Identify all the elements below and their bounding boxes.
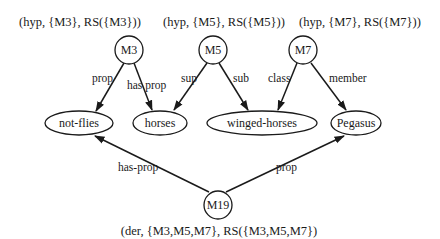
node-horses-label: horses [145,116,176,130]
edge-m7-class [278,63,297,110]
edge-label-has-prop: has prop [127,79,167,92]
node-m7-label: M7 [295,43,312,57]
node-not-flies: not-flies [45,111,113,135]
assertion-label-m3: (hyp, {M3}, RS({M3})) [19,15,141,29]
node-m7: M7 [289,36,317,64]
node-winged-horses: winged-horses [207,111,317,135]
node-horses: horses [133,111,187,135]
edge-label-prop: prop [92,72,113,85]
edge-m3-prop [96,63,124,111]
assertion-label-m5: (hyp, {M5}, RS({M5})) [163,15,285,29]
node-pegasus: Pegasus [331,111,381,135]
node-m5: M5 [199,36,227,64]
node-m3-label: M3 [121,43,138,57]
node-not-flies-label: not-flies [59,116,99,130]
node-m19-label: M19 [207,198,230,212]
node-pegasus-label: Pegasus [337,116,376,130]
node-m3: M3 [115,36,143,64]
edge-label-m19-prop: prop [276,161,297,174]
edge-label-sub: sub [233,72,249,84]
assertion-label-m19: (der, {M3,M5,M7}, RS({M3,M5,M7}) [121,224,317,238]
node-winged-horses-label: winged-horses [227,116,297,130]
edge-label-member: member [329,72,367,84]
edge-label-class: class [268,72,291,84]
node-m5-label: M5 [205,43,222,57]
edge-m7-member [311,63,346,110]
semantic-network-diagram: (hyp, {M3}, RS({M3})) (hyp, {M5}, RS({M5… [0,0,440,239]
edge-m5-sup [174,63,207,110]
node-m19: M19 [204,191,232,219]
edge-label-sup: sup [181,72,197,85]
assertion-label-m7: (hyp, {M7}, RS({M7})) [299,15,421,29]
edge-label-m19-has-prop: has-prop [118,161,158,174]
edge-m5-sub [219,63,248,110]
